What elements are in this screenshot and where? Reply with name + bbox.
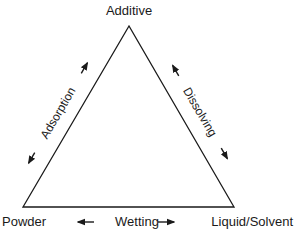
edge-label-wetting: Wetting <box>115 214 159 229</box>
vertex-label-powder: Powder <box>2 214 47 229</box>
edge-adsorption: Adsorption <box>23 59 94 166</box>
edge-label-adsorption: Adsorption <box>37 85 78 142</box>
edge-dissolving: Dissolving <box>167 62 234 162</box>
arrow-left-icon <box>173 65 179 75</box>
vertex-label-liquid-solvent: Liquid/Solvent <box>211 214 293 229</box>
arrow-right-icon <box>221 148 227 158</box>
edge-label-dissolving: Dissolving <box>180 85 220 139</box>
arrow-right-icon <box>81 63 87 73</box>
vertex-label-additive: Additive <box>106 3 152 18</box>
arrow-left-icon <box>29 153 35 163</box>
edge-wetting: Wetting <box>78 214 174 229</box>
triangle-diagram: Additive Powder Liquid/Solvent Adsorptio… <box>0 0 295 234</box>
